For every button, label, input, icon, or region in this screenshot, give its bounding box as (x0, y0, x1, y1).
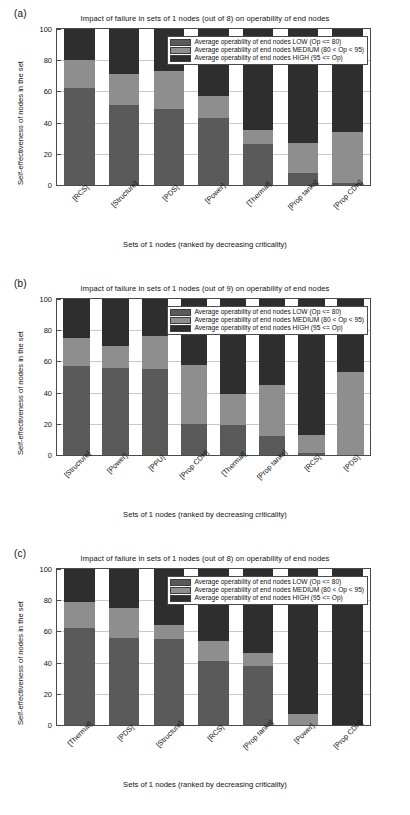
bar-segment-medium (142, 336, 169, 369)
legend-label-medium: Average operability of end nodes MEDIUM … (194, 47, 364, 54)
bar-segment-medium (220, 394, 247, 425)
chart-panel-2: (b)Impact of failure in sets of 1 nodes … (0, 270, 410, 540)
legend-item-medium: Average operability of end nodes MEDIUM … (170, 587, 364, 594)
bar-segment-medium (198, 641, 228, 661)
bar-segment-low (109, 638, 139, 725)
bar-segment-medium (332, 132, 362, 183)
y-tick-mark (57, 725, 61, 726)
bar-segment-low (243, 666, 273, 725)
legend-item-medium: Average operability of end nodes MEDIUM … (170, 317, 364, 324)
legend-swatch-medium (170, 587, 191, 594)
bar-segment-medium (259, 385, 286, 436)
legend-swatch-high (170, 595, 191, 602)
legend-item-high: Average operability of end nodes HIGH (9… (170, 325, 364, 332)
stacked-bar[interactable] (109, 569, 139, 725)
y-tick-label: 100 (39, 565, 52, 574)
plot-area: Self-effectiveness of nodes in the set02… (0, 270, 410, 540)
bar-segment-medium (243, 653, 273, 665)
bar-segment-low (142, 369, 169, 455)
stacked-bar[interactable] (63, 299, 90, 455)
legend-swatch-high (170, 325, 191, 332)
legend-swatch-low (170, 579, 191, 586)
y-axis-label: Self-effectiveness of nodes in the set (16, 331, 25, 455)
bar-segment-low (154, 639, 184, 725)
bar-segment-low (102, 368, 129, 455)
x-tick-label: [PDS] (160, 183, 180, 203)
y-tick-label: 60 (44, 87, 52, 96)
y-tick-label: 0 (48, 721, 52, 730)
bar-segment-high (142, 299, 169, 336)
y-tick-mark (57, 455, 61, 456)
chart-legend: Average operability of end nodes LOW (Op… (167, 36, 368, 65)
legend-label-low: Average operability of end nodes LOW (Op… (194, 309, 341, 316)
bar-segment-medium (243, 130, 273, 144)
stacked-bar[interactable] (142, 299, 169, 455)
bar-segment-high (64, 29, 94, 60)
stacked-bar[interactable] (109, 29, 139, 185)
legend-label-high: Average operability of end nodes HIGH (9… (194, 325, 342, 332)
chart-panel-3: (c)Impact of failure in sets of 1 nodes … (0, 540, 410, 810)
x-tick-label: [RCS] (303, 453, 323, 473)
y-tick-label: 0 (48, 451, 52, 460)
x-tick-label: [PPU] (146, 453, 166, 473)
y-tick-label: 40 (44, 388, 52, 397)
bar-slot: [Thermal] (57, 569, 102, 725)
legend-item-low: Average operability of end nodes LOW (Op… (170, 579, 364, 586)
y-tick-label: 100 (39, 295, 52, 304)
bar-segment-high (64, 569, 94, 602)
x-tick-label: [RCS] (205, 723, 225, 743)
y-tick-label: 100 (39, 25, 52, 34)
y-tick-mark (57, 185, 61, 186)
bar-segment-medium (154, 71, 184, 108)
bar-slot: [Structure] (102, 29, 147, 185)
y-axis-label: Self-effectiveness of nodes in the set (16, 61, 25, 185)
y-tick-label: 80 (44, 56, 52, 65)
bar-slot: [PDS] (102, 569, 147, 725)
chart-legend: Average operability of end nodes LOW (Op… (167, 306, 368, 335)
bar-segment-low (198, 118, 228, 185)
bar-slot: [Structure] (57, 299, 96, 455)
bar-segment-low (109, 105, 139, 185)
legend-label-medium: Average operability of end nodes MEDIUM … (194, 317, 364, 324)
bar-segment-medium (109, 608, 139, 638)
axes-box: 020406080100[Thermal][PDS][Structure][RC… (56, 568, 371, 726)
legend-label-high: Average operability of end nodes HIGH (9… (194, 55, 342, 62)
bar-segment-low (64, 88, 94, 185)
bar-segment-high (109, 29, 139, 74)
y-tick-label: 80 (44, 596, 52, 605)
y-tick-label: 80 (44, 326, 52, 335)
stacked-bar[interactable] (64, 29, 94, 185)
x-axis-label: Sets of 1 nodes (ranked by decreasing cr… (0, 240, 410, 249)
plot-area: Self-effectiveness of nodes in the set02… (0, 0, 410, 270)
legend-swatch-medium (170, 47, 191, 54)
legend-swatch-low (170, 39, 191, 46)
stacked-bar[interactable] (102, 299, 129, 455)
x-axis-label: Sets of 1 nodes (ranked by decreasing cr… (0, 780, 410, 789)
x-tick-label: [RCS] (71, 183, 91, 203)
legend-label-medium: Average operability of end nodes MEDIUM … (194, 587, 364, 594)
legend-item-low: Average operability of end nodes LOW (Op… (170, 39, 364, 46)
stacked-bar[interactable] (64, 569, 94, 725)
y-tick-label: 20 (44, 689, 52, 698)
bar-segment-medium (181, 365, 208, 424)
bar-segment-low (243, 144, 273, 185)
bar-segment-low (154, 109, 184, 185)
x-axis-label: Sets of 1 nodes (ranked by decreasing cr… (0, 510, 410, 519)
legend-swatch-high (170, 55, 191, 62)
bar-slot: [Power] (96, 299, 135, 455)
y-axis-label: Self-effectiveness of nodes in the set (16, 601, 25, 725)
legend-item-low: Average operability of end nodes LOW (Op… (170, 309, 364, 316)
bar-segment-medium (198, 96, 228, 118)
bar-segment-low (298, 453, 325, 455)
axes-box: 020406080100[Structure][Power][PPU][Prop… (56, 298, 371, 456)
x-tick-label: [PDS] (116, 723, 136, 743)
bar-segment-medium (298, 435, 325, 454)
bar-segment-low (63, 366, 90, 455)
y-tick-label: 0 (48, 181, 52, 190)
bar-segment-medium (288, 714, 318, 725)
y-tick-label: 40 (44, 658, 52, 667)
y-tick-label: 20 (44, 149, 52, 158)
bar-segment-medium (102, 346, 129, 368)
bar-slot: [RCS] (57, 29, 102, 185)
axes-box: 020406080100[RCS][Structure][PDS][Power]… (56, 28, 371, 186)
